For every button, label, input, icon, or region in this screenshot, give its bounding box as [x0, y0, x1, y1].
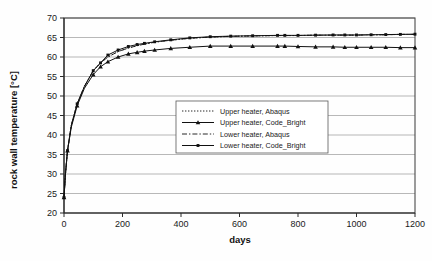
data-marker-square — [297, 34, 300, 37]
x-tick-label: 200 — [115, 219, 130, 229]
y-tick-label: 35 — [47, 150, 57, 160]
data-marker-square — [251, 34, 254, 37]
y-axis-title: rock wall temperature [°C] — [8, 71, 19, 189]
legend-label: Lower heater, Code_Bright — [220, 141, 306, 150]
y-tick-label: 55 — [47, 72, 57, 82]
legend-label: Lower heater, Abaqus — [220, 130, 290, 139]
data-marker-square — [229, 35, 232, 38]
data-marker-square — [332, 34, 335, 37]
data-marker-square — [106, 54, 109, 57]
data-marker-square — [399, 33, 402, 36]
x-tick-label: 0 — [61, 219, 66, 229]
y-tick-label: 40 — [47, 130, 57, 140]
x-tick-label: 400 — [173, 219, 188, 229]
data-marker-square — [136, 43, 139, 46]
data-marker-square — [384, 33, 387, 36]
y-tick-label: 45 — [47, 111, 57, 121]
legend-label: Upper heater, Abaqus — [220, 107, 290, 116]
temperature-line-chart: 2025303540455055606570 02004006008001000… — [0, 0, 432, 261]
y-tick-label: 50 — [47, 91, 57, 101]
data-marker-square — [117, 49, 120, 52]
data-marker-square — [99, 61, 102, 64]
data-marker-square — [143, 42, 146, 45]
y-tick-label: 70 — [47, 13, 57, 23]
data-marker-square — [66, 149, 69, 152]
x-tick-label: 600 — [232, 219, 247, 229]
data-marker-square — [188, 36, 191, 39]
data-marker-square — [76, 102, 79, 105]
data-marker-square — [370, 33, 373, 36]
y-tick-label: 25 — [47, 189, 57, 199]
data-marker-square — [283, 34, 286, 37]
data-marker-square — [197, 144, 200, 147]
data-marker-square — [414, 33, 417, 36]
data-marker-square — [209, 35, 212, 38]
x-tick-label: 1000 — [346, 219, 366, 229]
x-tick-label: 1200 — [405, 219, 425, 229]
data-marker-square — [92, 69, 95, 72]
y-tick-label: 30 — [47, 169, 57, 179]
legend-label: Upper heater, Code_Bright — [220, 118, 306, 127]
x-axis-title: days — [229, 234, 251, 245]
x-tick-label: 800 — [290, 219, 305, 229]
data-marker-square — [63, 196, 66, 199]
data-marker-square — [153, 40, 156, 43]
y-tick-label: 60 — [47, 52, 57, 62]
data-marker-square — [169, 38, 172, 41]
data-marker-square — [127, 45, 130, 48]
y-tick-label: 20 — [47, 208, 57, 218]
data-marker-square — [343, 34, 346, 37]
chart-figure: 2025303540455055606570 02004006008001000… — [0, 0, 432, 261]
data-marker-square — [314, 34, 317, 37]
y-tick-label: 65 — [47, 33, 57, 43]
chart-legend[interactable]: Upper heater, AbaqusUpper heater, Code_B… — [176, 101, 328, 153]
data-marker-square — [276, 34, 279, 37]
data-marker-square — [355, 34, 358, 37]
